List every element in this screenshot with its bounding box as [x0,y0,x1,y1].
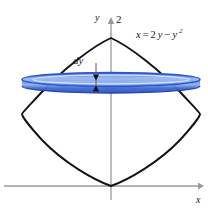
equation-lhs: x [136,29,141,40]
equation-minus: − [165,29,171,40]
y-axis [108,17,115,200]
equation-term1-coeff: 2 [151,29,156,40]
solid-of-revolution-figure: y 2 x dy x=2y−y2 [0,0,208,214]
equation-term1-var: y [158,29,163,40]
y-axis-label: y [95,13,99,23]
equation-term2-exponent: 2 [179,27,183,35]
x-axis-label: x [196,195,200,205]
y-tick-label-2: 2 [116,14,122,25]
representative-disk [22,73,200,94]
curve-equation-label: x=2y−y2 [136,28,183,40]
dy-label: dy [73,55,83,66]
equation-term2-var: y [172,29,177,40]
equation-equals: = [143,29,149,40]
